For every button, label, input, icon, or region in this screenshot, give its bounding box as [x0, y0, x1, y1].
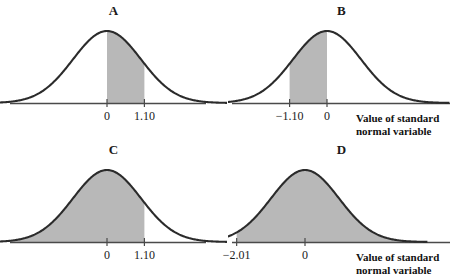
- axis-caption-d-line2: normal variable: [356, 264, 439, 277]
- panel-c: C 0 1.10: [0, 139, 227, 278]
- panel-c-shaded-area: [0, 170, 144, 242]
- axis-caption-b-line1: Value of standard: [356, 112, 439, 125]
- panel-c-plot: [0, 139, 227, 278]
- panel-b-tick-label-0: −1.10: [276, 109, 304, 124]
- panel-b-curve: [228, 31, 449, 103]
- panel-a-tick-label-0: 0: [104, 109, 110, 124]
- panel-a: A 0 1.10: [0, 0, 227, 139]
- axis-caption-d-line1: Value of standard: [356, 251, 439, 264]
- axis-caption-b-line2: normal variable: [356, 125, 439, 138]
- panel-d-tick-label-0: −2.01: [223, 248, 251, 263]
- panel-b-tick-label-1: 0: [324, 109, 330, 124]
- axis-caption-d: Value of standard normal variable: [356, 251, 439, 276]
- normal-curves-figure: A 0 1.10 B −1.10 0 C 0 1.10: [0, 0, 455, 278]
- panel-a-tick-label-1: 1.10: [134, 109, 155, 124]
- panel-c-tick-label-1: 1.10: [134, 248, 155, 263]
- panel-a-plot: [0, 0, 227, 139]
- panel-c-tick-label-0: 0: [104, 248, 110, 263]
- panel-d-tick-label-1: 0: [302, 248, 308, 263]
- axis-caption-b: Value of standard normal variable: [356, 112, 439, 137]
